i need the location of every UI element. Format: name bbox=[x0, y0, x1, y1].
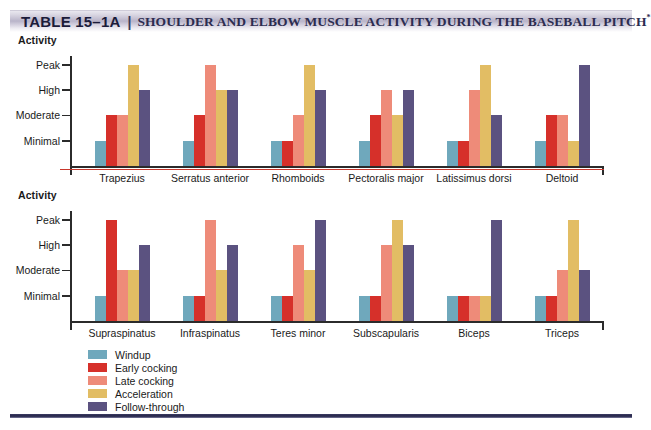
bar bbox=[568, 220, 579, 321]
bar bbox=[106, 220, 117, 321]
bar bbox=[183, 296, 194, 321]
y-axis-label: Peak bbox=[2, 214, 60, 226]
bar bbox=[205, 65, 216, 166]
y-axis-label: High bbox=[2, 239, 60, 251]
bar bbox=[183, 141, 194, 166]
bar bbox=[491, 115, 502, 166]
x-axis-category-label: Serratus anterior bbox=[171, 172, 249, 184]
bar bbox=[205, 220, 216, 321]
x-axis-category-label: Teres minor bbox=[271, 327, 326, 339]
y-axis-tick bbox=[62, 244, 70, 246]
chart-top-plot-area: PeakHighModerateMinimalTrapeziusSerratus… bbox=[0, 48, 639, 184]
bar bbox=[458, 141, 469, 166]
bar-group bbox=[271, 56, 326, 166]
bar bbox=[304, 270, 315, 321]
y-axis-tick bbox=[62, 140, 70, 142]
bar bbox=[315, 220, 326, 321]
legend-item-label: Late cocking bbox=[115, 375, 174, 387]
bar bbox=[106, 115, 117, 166]
legend-item-label: Follow-through bbox=[115, 401, 184, 413]
x-axis-category-label: Biceps bbox=[458, 327, 490, 339]
bar bbox=[216, 270, 227, 321]
legend-swatch-icon bbox=[88, 363, 107, 372]
y-axis-label: High bbox=[2, 84, 60, 96]
x-axis-category-label: Subscapularis bbox=[353, 327, 419, 339]
table-title-text: SHOULDER AND ELBOW MUSCLE ACTIVITY DURIN… bbox=[137, 14, 646, 29]
legend-swatch-icon bbox=[88, 376, 107, 385]
x-axis-category-label: Supraspinatus bbox=[88, 327, 155, 339]
bar bbox=[293, 115, 304, 166]
legend-swatch-icon bbox=[88, 402, 107, 411]
bar-group bbox=[271, 211, 326, 321]
bar bbox=[216, 90, 227, 166]
y-axis-label: Minimal bbox=[2, 135, 60, 147]
x-axis-end-cap bbox=[70, 166, 72, 175]
legend-item: Acceleration bbox=[88, 388, 184, 400]
bar-group bbox=[535, 211, 590, 321]
bar bbox=[381, 90, 392, 166]
bar bbox=[282, 141, 293, 166]
chart-top-axis-title: Activity bbox=[18, 34, 57, 46]
bar bbox=[447, 296, 458, 321]
bar-group bbox=[359, 211, 414, 321]
bar bbox=[139, 90, 150, 166]
bar-group bbox=[535, 56, 590, 166]
bar bbox=[546, 296, 557, 321]
x-axis-end-cap bbox=[70, 321, 72, 330]
legend-item: Early cocking bbox=[88, 362, 184, 374]
bar bbox=[128, 270, 139, 321]
bar-group bbox=[447, 56, 502, 166]
y-axis-tick bbox=[62, 295, 70, 297]
table-title: SHOULDER AND ELBOW MUSCLE ACTIVITY DURIN… bbox=[137, 13, 650, 30]
y-axis-label: Moderate bbox=[2, 264, 60, 276]
bar bbox=[117, 270, 128, 321]
bar bbox=[227, 245, 238, 321]
table-number-label: TABLE 15–1A bbox=[21, 13, 120, 30]
bar-group bbox=[95, 211, 150, 321]
bar bbox=[128, 65, 139, 166]
bar bbox=[546, 115, 557, 166]
chart-bottom-plot-area: PeakHighModerateMinimalSupraspinatusInfr… bbox=[0, 203, 639, 339]
bar bbox=[568, 141, 579, 166]
y-axis-line bbox=[70, 56, 72, 166]
bar bbox=[480, 65, 491, 166]
bar bbox=[315, 90, 326, 166]
chart-bottom-axis-title: Activity bbox=[18, 189, 57, 201]
y-axis-line bbox=[70, 211, 72, 321]
bar bbox=[535, 141, 546, 166]
legend-swatch-icon bbox=[88, 350, 107, 359]
x-axis-end-cap bbox=[602, 321, 604, 330]
bar bbox=[282, 296, 293, 321]
legend-item-label: Acceleration bbox=[115, 388, 173, 400]
bar bbox=[271, 141, 282, 166]
x-axis-category-label: Trapezius bbox=[99, 172, 145, 184]
bar bbox=[359, 141, 370, 166]
bar bbox=[227, 90, 238, 166]
bar bbox=[469, 296, 480, 321]
y-axis-tick bbox=[62, 219, 70, 221]
bar bbox=[469, 90, 480, 166]
bar bbox=[447, 141, 458, 166]
y-axis-tick bbox=[62, 115, 70, 117]
shoulder-muscle-chart: Activity PeakHighModerateMinimalTrapeziu… bbox=[0, 34, 639, 184]
legend-item: Follow-through bbox=[88, 401, 184, 413]
chart-legend: WindupEarly cockingLate cockingAccelerat… bbox=[88, 349, 184, 414]
legend-swatch-icon bbox=[88, 389, 107, 398]
bar bbox=[95, 141, 106, 166]
rotator-cuff-muscle-chart: Activity PeakHighModerateMinimalSupraspi… bbox=[0, 189, 639, 339]
bar bbox=[359, 296, 370, 321]
bar bbox=[194, 296, 205, 321]
y-axis-label: Minimal bbox=[2, 290, 60, 302]
x-axis-category-label: Infraspinatus bbox=[180, 327, 240, 339]
x-axis-category-label: Rhomboids bbox=[271, 172, 324, 184]
x-axis-line bbox=[70, 321, 604, 323]
bar bbox=[392, 220, 403, 321]
bottom-divider-rule bbox=[10, 414, 632, 418]
bar bbox=[370, 115, 381, 166]
bar bbox=[480, 296, 491, 321]
bar bbox=[403, 245, 414, 321]
bar bbox=[403, 90, 414, 166]
bar bbox=[535, 296, 546, 321]
bar-group bbox=[447, 211, 502, 321]
y-axis-label: Moderate bbox=[2, 109, 60, 121]
